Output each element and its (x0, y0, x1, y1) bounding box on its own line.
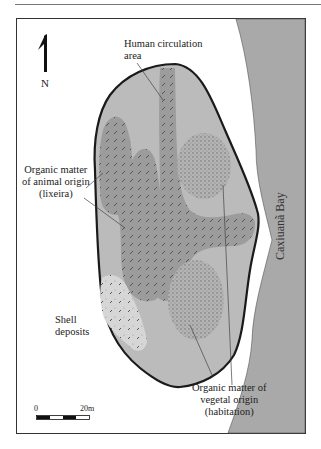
north-label: N (41, 77, 49, 89)
vegetal-origin-lower (168, 260, 224, 340)
label-vegetal-origin: Organic matter of vegetal origin (habita… (192, 382, 266, 418)
label-animal-origin: Organic matter of animal origin (lixeira… (22, 164, 90, 200)
label-human-circulation: Human circulation area (124, 38, 202, 62)
label-bay: Caxiuanã Bay (273, 192, 288, 260)
label-shell-deposits: Shell deposits (55, 314, 89, 338)
scale-end-label: 20m (80, 404, 94, 413)
scale-start-label: 0 (34, 404, 38, 413)
scale-bar (37, 416, 90, 420)
